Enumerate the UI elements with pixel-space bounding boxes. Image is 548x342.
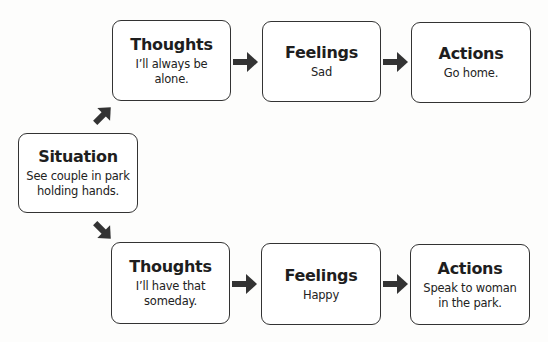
actions-box-positive: Actions Speak to woman in the park. [410, 244, 530, 325]
thoughts-text: I’ll have that someday. [120, 279, 222, 309]
feelings-text: Sad [305, 65, 338, 80]
arrow-down-right-icon [90, 218, 116, 244]
arrow-up-right-icon [90, 102, 116, 128]
feelings-title: Feelings [285, 266, 358, 285]
actions-text: Speak to woman in the park. [411, 281, 529, 311]
actions-text: Go home. [438, 66, 504, 81]
actions-title: Actions [438, 259, 503, 278]
arrow-right-icon [233, 52, 259, 72]
feelings-title: Feelings [285, 43, 358, 62]
feelings-text: Happy [297, 288, 345, 303]
situation-title: Situation [38, 147, 118, 166]
actions-title: Actions [439, 44, 504, 63]
feelings-box-positive: Feelings Happy [261, 243, 381, 325]
thoughts-box-positive: Thoughts I’ll have that someday. [111, 242, 230, 324]
thoughts-box-negative: Thoughts I’ll always be alone. [112, 20, 231, 101]
arrow-right-icon [383, 274, 409, 294]
thoughts-title: Thoughts [129, 257, 211, 276]
feelings-box-negative: Feelings Sad [262, 21, 381, 102]
thoughts-title: Thoughts [130, 35, 212, 54]
arrow-right-icon [232, 274, 258, 294]
arrow-right-icon [383, 52, 409, 72]
thoughts-text: I’ll always be alone. [113, 57, 230, 87]
situation-text: See couple in park holding hands. [19, 169, 137, 199]
situation-box: Situation See couple in park holding han… [18, 133, 138, 213]
actions-box-negative: Actions Go home. [411, 22, 531, 103]
